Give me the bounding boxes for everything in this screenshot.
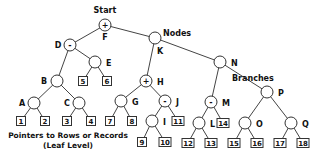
tree-node-D: -D <box>55 39 76 51</box>
node-circle <box>146 115 158 127</box>
node-sign: + <box>102 21 109 30</box>
tree-node-Q: Q <box>285 117 309 129</box>
node-circle <box>149 32 161 44</box>
node-circle <box>285 117 297 129</box>
tree-node-A: A <box>19 97 40 109</box>
leaf-number: 8 <box>130 118 135 126</box>
node-label: E <box>106 59 111 68</box>
tree-node-K: K <box>149 32 164 56</box>
node-label: L <box>210 120 215 129</box>
node-label: B <box>41 77 47 86</box>
tree-node-E: E <box>89 56 111 68</box>
node-sign: - <box>68 41 71 50</box>
node-label: F <box>102 33 107 42</box>
leaf-number: 16 <box>252 140 262 148</box>
tree-node-O: O <box>239 117 263 129</box>
leaf-level-caption-line1: Pointers to Rows or Records <box>8 131 128 140</box>
node-circle <box>214 56 226 68</box>
node-circle <box>28 97 40 109</box>
node-label: K <box>157 47 164 56</box>
tree-node-I: I <box>146 115 166 127</box>
node-label: G <box>132 98 139 107</box>
leaf-number: 6 <box>105 78 110 86</box>
node-circle <box>51 75 63 87</box>
leaf-number: 17 <box>275 140 285 148</box>
tree-diagram: +F-DKEBAC+HG-JIN-MLPOQ 12345678910111213… <box>0 0 323 160</box>
leaf-box-16: 16 <box>251 139 263 149</box>
leaf-box-11: 11 <box>172 117 184 127</box>
node-label: D <box>55 41 62 50</box>
node-sign: + <box>143 77 150 86</box>
leaf-number: 9 <box>140 139 145 147</box>
tree-node-P: P <box>261 86 284 98</box>
leaf-number: 4 <box>89 118 94 126</box>
leaf-number: 2 <box>43 118 48 126</box>
tree-node-C: C <box>64 97 85 109</box>
node-label: M <box>222 99 230 108</box>
leaf-box-2: 2 <box>41 117 50 127</box>
leaf-box-8: 8 <box>128 117 137 127</box>
leaf-box-7: 7 <box>106 117 115 127</box>
leaf-box-9: 9 <box>138 138 147 148</box>
leaf-box-14: 14 <box>217 119 229 129</box>
leaf-box-4: 4 <box>87 117 96 127</box>
leaf-number: 3 <box>65 118 70 126</box>
leaf-box-17: 17 <box>274 139 286 149</box>
leaf-number: 18 <box>298 140 308 148</box>
leaf-level-caption-line2: (Leaf Level) <box>43 141 93 150</box>
node-label: P <box>278 89 284 98</box>
node-label: C <box>64 99 70 108</box>
tree-node-H: +H <box>140 75 164 87</box>
leaf-box-12: 12 <box>182 139 194 149</box>
leaf-number: 15 <box>229 140 239 148</box>
branch-line <box>105 25 155 38</box>
leaf-box-3: 3 <box>63 117 72 127</box>
leaf-box-5: 5 <box>79 77 88 87</box>
leaf-box-18: 18 <box>297 139 309 149</box>
tree-node-J: -J <box>159 95 179 107</box>
branch-line <box>155 38 220 62</box>
node-circle <box>73 97 85 109</box>
node-circle <box>193 117 205 129</box>
tree-node-L: L <box>193 117 215 129</box>
node-sign: - <box>209 98 212 107</box>
leaf-number: 7 <box>108 118 113 126</box>
node-label: I <box>163 118 166 127</box>
tree-node-M: -M <box>205 96 230 108</box>
leaf-box-10: 10 <box>159 138 171 148</box>
node-label: O <box>256 120 263 129</box>
node-circle <box>239 117 251 129</box>
node-label: A <box>19 99 26 108</box>
leaf-number: 1 <box>19 118 24 126</box>
leaf-number: 13 <box>206 140 216 148</box>
node-sign: - <box>163 97 166 106</box>
node-label: Q <box>302 120 309 129</box>
node-circle <box>115 95 127 107</box>
leaf-number: 10 <box>160 139 170 147</box>
start-label: Start <box>94 6 117 15</box>
node-label: H <box>157 78 164 87</box>
leaf-number: 5 <box>81 78 86 86</box>
leaf-box-15: 15 <box>228 139 240 149</box>
nodes-label: Nodes <box>163 29 191 38</box>
leaf-number: 14 <box>218 120 228 128</box>
node-circle <box>89 56 101 68</box>
tree-node-F: +F <box>99 19 111 42</box>
node-circle <box>261 86 273 98</box>
leaf-box-6: 6 <box>103 77 112 87</box>
node-label: J <box>175 98 179 107</box>
leaf-box-1: 1 <box>17 117 26 127</box>
leaf-number: 12 <box>183 140 193 148</box>
leaf-number: 11 <box>173 118 183 126</box>
leaf-box-13: 13 <box>205 139 217 149</box>
node-label: N <box>231 59 238 68</box>
branches-label: Branches <box>232 74 274 83</box>
branch-line <box>146 38 155 81</box>
